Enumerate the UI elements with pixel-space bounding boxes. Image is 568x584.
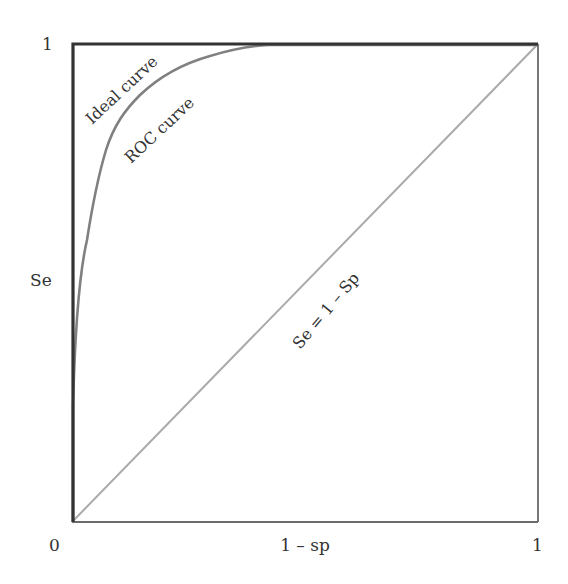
y-tick-top: 1 [42, 34, 53, 54]
roc-chart: 1 0 1 Se 1 – sp Ideal curve ROC curve Se… [0, 0, 568, 584]
y-axis-label: Se [30, 270, 52, 290]
x-axis-label: 1 – sp [280, 535, 330, 555]
origin-tick: 0 [49, 535, 60, 555]
x-tick-right: 1 [532, 535, 543, 555]
diagonal-line [73, 44, 538, 521]
diagonal-label: Se = 1 – Sp [289, 269, 364, 353]
